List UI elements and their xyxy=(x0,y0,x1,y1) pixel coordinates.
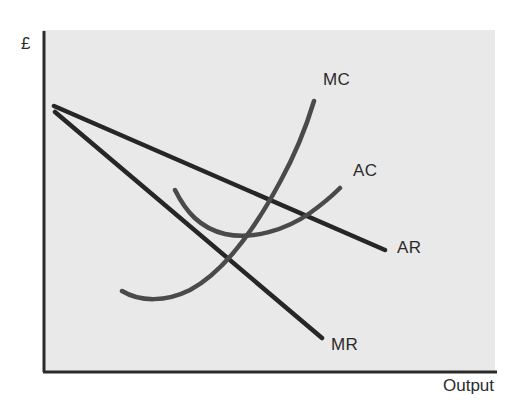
curve-label-ar: AR xyxy=(397,239,421,256)
y-axis-label: £ xyxy=(21,35,30,52)
x-axis-label: Output xyxy=(443,377,494,394)
curve-label-ac: AC xyxy=(353,162,377,179)
economics-diagram: £ Output MC AC AR MR xyxy=(0,0,522,416)
curve-ar xyxy=(54,106,385,250)
curve-mc xyxy=(122,101,314,299)
chart-canvas xyxy=(0,0,522,416)
curve-mr xyxy=(55,112,322,338)
curve-label-mc: MC xyxy=(323,71,350,88)
curve-label-mr: MR xyxy=(331,336,358,353)
